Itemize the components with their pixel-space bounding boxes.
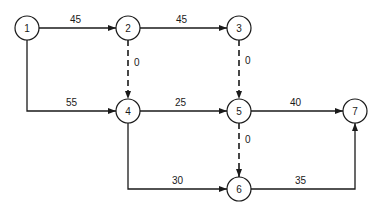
edge-label-5-7: 40 (290, 97, 302, 108)
edge-label-2-4: 0 (134, 57, 140, 68)
edge-label-2-3: 45 (176, 14, 188, 25)
network-diagram: 45 45 0 0 55 25 40 0 30 35 1 (0, 0, 385, 214)
node-3: 3 (227, 16, 251, 40)
edge-label-4-5: 25 (175, 97, 187, 108)
node-5: 5 (227, 99, 251, 123)
edge-label-1-2: 45 (70, 14, 82, 25)
node-label-4: 4 (125, 106, 131, 117)
node-6: 6 (227, 177, 251, 201)
edge-label-3-5: 0 (245, 55, 251, 66)
node-label-1: 1 (24, 23, 30, 34)
edge-label-6-7: 35 (295, 175, 307, 186)
node-4: 4 (116, 99, 140, 123)
edges: 45 45 0 0 55 25 40 0 30 35 (27, 14, 355, 189)
node-label-5: 5 (236, 106, 242, 117)
edge-label-5-6: 0 (245, 134, 251, 145)
node-label-6: 6 (236, 184, 242, 195)
node-label-3: 3 (236, 23, 242, 34)
edge-label-1-4: 55 (66, 97, 78, 108)
node-7: 7 (343, 99, 367, 123)
node-1: 1 (15, 16, 39, 40)
node-2: 2 (116, 16, 140, 40)
node-label-2: 2 (125, 23, 131, 34)
edge-label-4-6: 30 (172, 175, 184, 186)
node-label-7: 7 (352, 106, 358, 117)
nodes: 1 2 3 4 5 6 7 (15, 16, 367, 201)
